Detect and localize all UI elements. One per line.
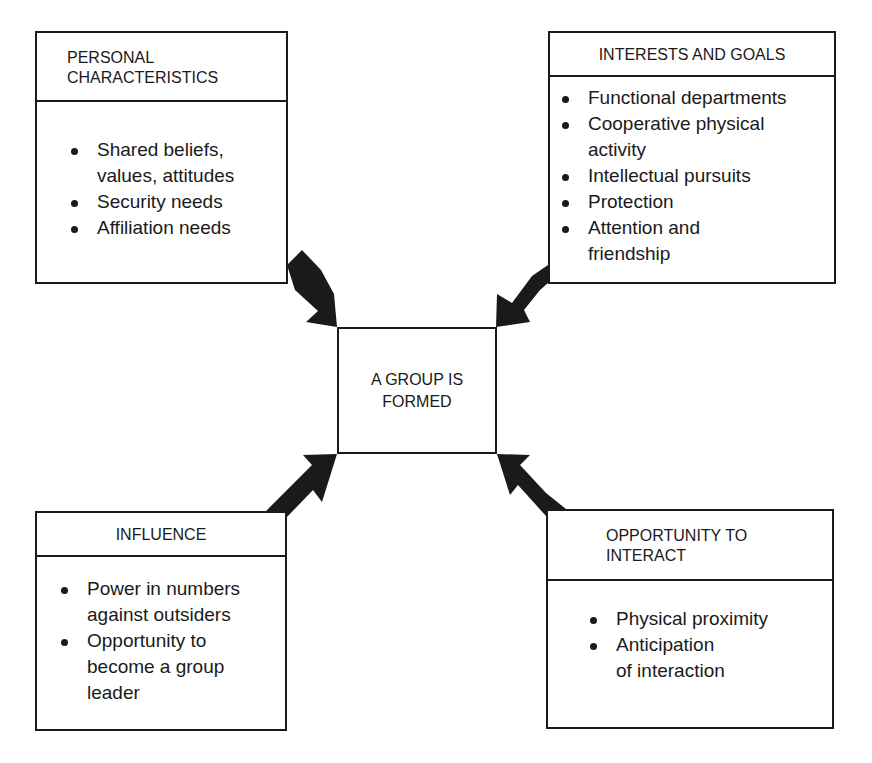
influence-title: INFLUENCE — [37, 525, 285, 545]
influence-list: Power in numbersagainst outsiders Opport… — [37, 557, 285, 706]
arrow-interests-to-center — [496, 265, 548, 327]
list-item: Cooperative physicalactivity — [558, 111, 834, 163]
personal-title-line1: PERSONAL — [67, 48, 286, 68]
personal-characteristics-box: PERSONAL CHARACTERISTICS Shared beliefs,… — [35, 31, 288, 284]
arrow-personal-to-center — [287, 250, 337, 327]
personal-characteristics-header: PERSONAL CHARACTERISTICS — [37, 33, 286, 102]
personal-list: Shared beliefs,values, attitudes Securit… — [37, 102, 286, 241]
opportunity-list: Physical proximity Anticipationof intera… — [548, 581, 832, 684]
opportunity-interact-box: OPPORTUNITY TO INTERACT Physical proximi… — [546, 509, 834, 729]
group-formed-box: A GROUP IS FORMED — [337, 327, 497, 454]
list-item: Protection — [558, 189, 834, 215]
arrow-influence-to-center — [266, 454, 337, 518]
list-item: Power in numbersagainst outsiders — [57, 576, 285, 628]
interests-goals-box: INTERESTS AND GOALS Functional departmen… — [548, 31, 836, 284]
center-line1: A GROUP IS — [371, 369, 463, 391]
influence-box: INFLUENCE Power in numbersagainst outsid… — [35, 511, 287, 731]
arrow-opportunity-to-center — [497, 454, 566, 516]
interests-list: Functional departments Cooperative physi… — [550, 77, 834, 267]
interests-goals-header: INTERESTS AND GOALS — [550, 33, 834, 77]
center-line2: FORMED — [371, 391, 463, 413]
list-item: Affiliation needs — [67, 215, 286, 241]
list-item: Opportunity tobecome a groupleader — [57, 628, 285, 706]
opportunity-header: OPPORTUNITY TO INTERACT — [548, 511, 832, 581]
list-item: Security needs — [67, 189, 286, 215]
list-item: Functional departments — [558, 85, 834, 111]
opportunity-title-line1: OPPORTUNITY TO — [606, 526, 832, 546]
interests-title: INTERESTS AND GOALS — [550, 45, 834, 65]
list-item: Physical proximity — [586, 606, 832, 632]
list-item: Shared beliefs,values, attitudes — [67, 137, 286, 189]
list-item: Intellectual pursuits — [558, 163, 834, 189]
list-item: Anticipationof interaction — [586, 632, 832, 684]
opportunity-title-line2: INTERACT — [606, 546, 832, 566]
personal-title-line2: CHARACTERISTICS — [67, 68, 286, 88]
list-item: Attention andfriendship — [558, 215, 834, 267]
influence-header: INFLUENCE — [37, 513, 285, 557]
